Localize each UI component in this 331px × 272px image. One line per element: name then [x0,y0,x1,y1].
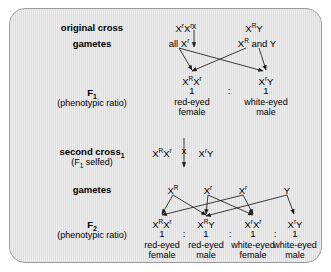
f2o3-sup2: r [259,218,261,225]
ocm-y: Y [256,23,262,34]
gamete-arrow-male-to-f1-male [259,48,266,70]
gamete-arrow-male-to-f1-female [192,48,246,71]
g1m-and-y: and Y [249,38,276,49]
f1-ratio-2: 1 [263,86,268,96]
f1-ratio-1: 1 [189,86,194,96]
second-cross-text: second cross [59,146,120,157]
f2-arrow-e [162,195,243,215]
g1f-text: all X [169,38,187,49]
f1o1-sup2: r [200,75,202,82]
f2-ratio-4: 1 [292,229,297,239]
stage-note-f1: (phenotypic ratio) [57,99,127,109]
original-cross-female-genotype: XrXr [175,22,192,34]
gametes2-item-1: XR [167,184,178,196]
stage-label-original-cross: original cross [61,23,123,33]
scf-sup2: r [170,147,172,154]
f1p2-line2: male [256,107,276,117]
f2-arrow-a [162,195,173,214]
second-cross-male-genotype: XrY [199,147,214,159]
f2-arrow-c [206,195,208,214]
f2-phenotype-3: white-eyed female [231,240,275,260]
f2-phenotype-2: red-eyed male [188,240,224,260]
stage-note-second-cross: (F1 selfed) [71,158,113,169]
f2-phenotype-1: red-eyed female [144,240,180,260]
f1-phenotype-1: red-eyed female [174,97,210,117]
f2p1-line1: red-eyed [144,240,180,250]
f1-phenotype-2: white-eyed male [244,97,288,117]
gametes2-item-4: Y [284,184,290,196]
f2p2-line1: red-eyed [188,240,224,250]
stage-note-f2: (phenotypic ratio) [57,231,127,241]
second-cross-subscript: 1 [121,152,125,159]
f2-arrow-f [243,195,253,214]
f2-ratio-1: 1 [159,229,164,239]
genetics-cross-panel: original cross gametes F1 (phenotypic ra… [9,8,322,263]
f2p4-line1: white-eyed [273,240,317,250]
f2p4-line2: male [285,250,305,260]
second-cross-female-genotype: XRXr [152,147,172,159]
g1f-sup: r [187,37,189,44]
f2-ratio-separator-3: : [274,229,277,239]
f1p2-line1: white-eyed [244,97,288,107]
gamete-arrow-female-to-f1-male [179,48,263,71]
f2p3-line2: female [239,250,266,260]
second-cross-symbol: x [182,147,187,157]
f2p3-line1: white-eyed [231,240,275,250]
f1p1-line2: female [178,107,205,117]
f2-ratio-separator-2: : [229,229,232,239]
f2-arrow-d [208,195,253,215]
stage-label-gametes-2: gametes [73,185,112,195]
second-cross-note-pre: (F [71,157,80,167]
f1p1-line1: red-eyed [174,97,210,107]
gametes2-item-3: Xr [239,184,248,196]
f2-arrow-b [173,195,206,215]
f2o1-sup2: r [170,218,172,225]
scm-y: Y [207,148,213,159]
f2-ratio-2: 1 [203,229,208,239]
f2p1-line2: female [148,250,175,260]
f1-ratio-separator: : [228,86,231,96]
original-cross-male-genotype: XRY [245,22,262,34]
second-cross-note-post: selfed) [83,157,113,167]
gametes1-female: all Xr [169,37,190,49]
gametes2-item-2: Xr [204,184,213,196]
g2d-base: Y [284,185,290,196]
gamete-arrow-female-to-f1-female [179,48,192,70]
g2c-sup: r [245,184,247,191]
f2-arrow-g [206,195,287,216]
g2a-sup: R [174,184,179,191]
stage-label-gametes-1: gametes [73,39,112,49]
gametes1-male: XR and Y [238,37,276,49]
f2-ratio-separator-1: : [183,229,186,239]
f2p2-line2: male [196,250,216,260]
f2-ratio-3: 1 [250,229,255,239]
g2b-sup: r [210,184,212,191]
f2o2-y: Y [208,219,214,230]
original-cross-symbol: x [192,22,197,32]
f2-arrow-h [287,195,294,214]
f2-phenotype-4: white-eyed male [273,240,317,260]
